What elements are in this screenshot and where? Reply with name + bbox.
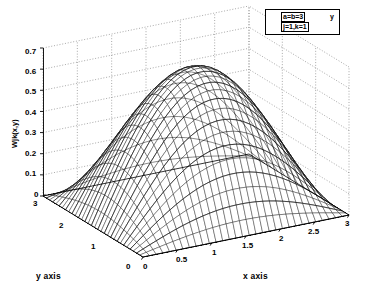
z-tick-0-4: 0.4	[25, 109, 36, 117]
x-axis-label: x axis	[243, 272, 268, 281]
x-tick-1: 1	[212, 249, 216, 257]
z-tick-0-6: 0.6	[25, 68, 36, 76]
z-tick-0-2: 0.2	[25, 150, 36, 158]
legend-mark: y	[330, 13, 334, 20]
x-tick-3: 3	[345, 220, 349, 228]
z-tick-0-5: 0.5	[25, 88, 36, 96]
z-tick-0-1: 0.1	[25, 170, 36, 178]
z-tick-0-7: 0.7	[25, 48, 36, 56]
y-tick-1: 1	[91, 243, 95, 251]
x-tick-1-5: 1.5	[242, 242, 253, 250]
z-axis-label: Wjk(x,y)	[11, 119, 19, 148]
x-tick-2: 2	[279, 235, 283, 243]
x-tick-2-5: 2.5	[308, 228, 319, 236]
legend-line-2: j=1,k=1	[281, 22, 309, 32]
y-axis-label: y axis	[36, 272, 61, 281]
plot-root: 0.7 0.6 0.5 0.4 0.3 0.2 0.1 0 Wjk(x,y) 3…	[0, 0, 366, 290]
y-tick-3: 3	[33, 200, 37, 208]
y-tick-2: 2	[59, 222, 63, 230]
legend-line-1: a=b=3	[281, 12, 305, 22]
z-tick-0-3: 0.3	[25, 129, 36, 137]
surface-plot-canvas	[0, 0, 366, 290]
legend-content: a=b=3 j=1,k=1	[281, 12, 329, 32]
x-tick-0: 0	[143, 263, 147, 271]
mesh-surface	[43, 65, 349, 257]
z-tick-0: 0	[34, 191, 38, 199]
x-tick-0-5: 0.5	[176, 256, 187, 264]
y-tick-0: 0	[126, 263, 130, 271]
